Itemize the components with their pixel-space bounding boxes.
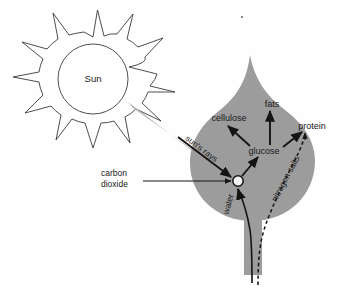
leaf-blade (190, 55, 315, 221)
reaction-hub-node (233, 176, 243, 186)
fats-label: fats (265, 99, 280, 109)
cellulose-label: cellulose (211, 113, 246, 123)
carbon-dioxide-label-line2: dioxide (101, 179, 128, 189)
glucose-label: glucose (248, 146, 279, 156)
scan-speck-artifact (241, 16, 243, 18)
protein-label: protein (298, 121, 326, 131)
diagram-canvas: Sun carbon dioxide (0, 0, 344, 290)
sun-label: Sun (85, 73, 102, 84)
sun-figure: Sun (13, 10, 175, 148)
carbon-dioxide-label-line1: carbon (101, 168, 127, 178)
photosynthesis-diagram: Sun carbon dioxide (0, 0, 344, 290)
leaf-stem (244, 215, 262, 275)
